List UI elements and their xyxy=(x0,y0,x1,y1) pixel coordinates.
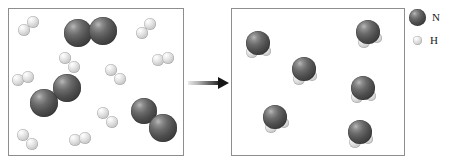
nitrogen-sphere-icon xyxy=(409,9,426,26)
arrow-shaft xyxy=(188,81,221,85)
legend-item-hydrogen: H xyxy=(409,35,438,46)
nitrogen-atom xyxy=(292,57,316,81)
nitrogen-atom xyxy=(89,17,117,45)
hydrogen-atom xyxy=(162,52,174,64)
nitrogen-atom xyxy=(149,114,177,142)
nitrogen-atom xyxy=(263,105,287,129)
hydrogen-atom xyxy=(144,18,156,30)
legend: N H xyxy=(409,9,449,61)
legend-item-nitrogen: N xyxy=(409,9,440,26)
hydrogen-atom xyxy=(79,132,91,144)
nitrogen-atom xyxy=(246,31,270,55)
reaction-arrow-icon xyxy=(188,77,230,89)
nitrogen-atom xyxy=(356,20,380,44)
reaction-figure: N H xyxy=(0,0,449,165)
legend-label-nitrogen: N xyxy=(432,12,440,23)
nitrogen-atom xyxy=(348,120,372,144)
legend-label-hydrogen: H xyxy=(430,35,438,46)
hydrogen-atom xyxy=(27,16,39,28)
nitrogen-atom xyxy=(53,74,81,102)
nitrogen-atom xyxy=(351,76,375,100)
hydrogen-atom xyxy=(22,71,34,83)
hydrogen-atom xyxy=(106,116,118,128)
hydrogen-atom xyxy=(68,61,80,73)
nitrogen-atom xyxy=(64,19,92,47)
hydrogen-atom xyxy=(26,138,38,150)
hydrogen-atom xyxy=(114,73,126,85)
arrow-head xyxy=(218,77,229,89)
hydrogen-sphere-icon xyxy=(413,36,422,45)
